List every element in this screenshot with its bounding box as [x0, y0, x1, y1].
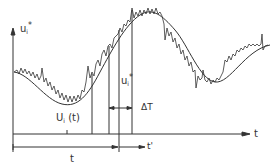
- window-label: ΔT: [141, 103, 153, 112]
- delta-t-arrow: [109, 107, 132, 110]
- y-axis-label: ui*: [20, 22, 32, 35]
- instant-label: ui*: [121, 74, 133, 87]
- instantaneous-curve: [14, 8, 268, 102]
- curve-label: Ui (t): [56, 113, 80, 124]
- time-span-arrow: [13, 144, 118, 152]
- x-axis-label: t: [254, 129, 258, 139]
- diagram-canvas: [0, 0, 280, 167]
- y-axis: [11, 28, 15, 150]
- shifted-time-arrow: [119, 146, 145, 149]
- time-span-label: t: [70, 154, 74, 164]
- shifted-time-label: t': [147, 142, 153, 151]
